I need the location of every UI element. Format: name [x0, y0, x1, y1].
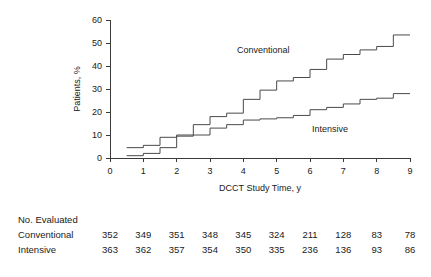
y-axis-title: Patients, % [72, 66, 82, 112]
risk-table-cell: 86 [397, 244, 423, 255]
risk-table-cell: 78 [397, 229, 423, 240]
risk-table-cell: 211 [297, 229, 323, 240]
step-chart-plot: 01020304050600123456789DCCT Study Time, … [0, 0, 431, 210]
x-tick-label: 4 [241, 166, 246, 176]
x-tick-label: 8 [374, 166, 379, 176]
series-label-conventional: Conventional [237, 45, 290, 55]
series-label-intensive: Intensive [312, 124, 348, 134]
x-tick-label: 2 [174, 166, 179, 176]
y-tick-label: 0 [97, 153, 102, 163]
x-tick-label: 3 [207, 166, 212, 176]
risk-table-row-label: Intensive [18, 244, 56, 255]
series-line-intensive [127, 94, 410, 156]
risk-table-cell: 236 [297, 244, 323, 255]
risk-table-cell: 348 [197, 229, 223, 240]
risk-table-cell: 128 [330, 229, 356, 240]
risk-table-cell: 349 [130, 229, 156, 240]
y-tick-label: 20 [92, 107, 102, 117]
risk-table-cell: 351 [164, 229, 190, 240]
risk-table-row-label: Conventional [18, 229, 73, 240]
x-tick-label: 5 [274, 166, 279, 176]
risk-table-cell: 324 [264, 229, 290, 240]
table-row: Conventional 352349351348345324211128837… [0, 229, 431, 244]
risk-table-cell: 345 [230, 229, 256, 240]
risk-table-cell: 363 [97, 244, 123, 255]
y-tick-label: 10 [92, 130, 102, 140]
risk-table-cell: 335 [264, 244, 290, 255]
table-row: Intensive 3633623573543503352361369386 [0, 244, 431, 259]
x-tick-label: 6 [307, 166, 312, 176]
x-tick-label: 7 [341, 166, 346, 176]
y-tick-label: 50 [92, 38, 102, 48]
x-tick-label: 0 [107, 166, 112, 176]
risk-table-header: No. Evaluated [18, 214, 78, 225]
risk-table-cell: 354 [197, 244, 223, 255]
y-tick-label: 60 [92, 15, 102, 25]
x-axis-title: DCCT Study Time, y [219, 183, 301, 193]
dcct-cumulative-incidence-figure: 01020304050600123456789DCCT Study Time, … [0, 0, 431, 277]
y-tick-label: 40 [92, 61, 102, 71]
risk-table-cell: 83 [364, 229, 390, 240]
risk-table-cell: 136 [330, 244, 356, 255]
risk-table-cell: 357 [164, 244, 190, 255]
x-tick-label: 9 [407, 166, 412, 176]
y-tick-label: 30 [92, 84, 102, 94]
x-tick-label: 1 [141, 166, 146, 176]
number-evaluated-table: No. Evaluated Conventional 3523493513483… [0, 208, 431, 277]
risk-table-cell: 350 [230, 244, 256, 255]
risk-table-cell: 362 [130, 244, 156, 255]
risk-table-cell: 352 [97, 229, 123, 240]
risk-table-cell: 93 [364, 244, 390, 255]
